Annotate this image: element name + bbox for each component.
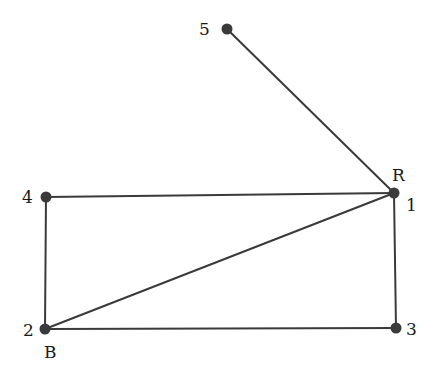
edge-5-1 <box>227 29 394 193</box>
edge-4-1 <box>46 193 394 197</box>
node-1-label: 1 <box>406 195 417 215</box>
edge-2-1 <box>45 193 394 329</box>
edge-2-3 <box>45 328 396 329</box>
edge-1-3 <box>394 193 396 328</box>
node-5-label: 5 <box>199 19 210 39</box>
node-5 <box>222 24 233 35</box>
edge-4-2 <box>45 197 46 329</box>
node-1-tag-label: R <box>392 165 406 185</box>
node-2-label: 2 <box>23 320 34 340</box>
node-2 <box>40 324 51 335</box>
node-3 <box>391 323 402 334</box>
node-2-tag-label: B <box>44 342 57 362</box>
node-4 <box>41 192 52 203</box>
node-3-label: 3 <box>406 319 417 339</box>
node-4-label: 4 <box>22 187 33 207</box>
graph-diagram: 5 R 1 4 2 B 3 <box>0 0 440 377</box>
node-1 <box>389 188 400 199</box>
